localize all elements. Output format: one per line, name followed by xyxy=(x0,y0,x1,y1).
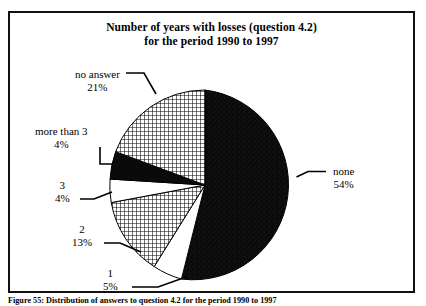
pie-label-3: 3 4% xyxy=(55,179,70,204)
pie-label-no-answer-value: 21% xyxy=(75,81,120,94)
pie-label-2-value: 13% xyxy=(72,236,92,249)
pie-label-3-name: 3 xyxy=(60,179,66,191)
pie-label-none: none 54% xyxy=(333,165,354,190)
leader-line-3 xyxy=(80,192,112,199)
figure-container: Number of years with losses (question 4.… xyxy=(0,0,426,306)
pie-label-2-name: 2 xyxy=(79,223,85,235)
pie-label-1-name: 1 xyxy=(108,267,114,279)
pie-label-3-value: 4% xyxy=(55,192,70,205)
pie-label-no-answer: no answer 21% xyxy=(75,68,120,93)
pie-label-none-name: none xyxy=(333,165,354,177)
pie-label-more-than-3-name: more than 3 xyxy=(35,125,88,137)
leader-line-more-than-3 xyxy=(100,147,113,164)
pie-label-1: 1 5% xyxy=(103,267,118,292)
pie-label-no-answer-name: no answer xyxy=(75,68,120,80)
pie-label-1-value: 5% xyxy=(103,280,118,293)
leader-line-none xyxy=(297,172,327,178)
pie-label-2: 2 13% xyxy=(72,223,92,248)
pie-label-more-than-3: more than 3 4% xyxy=(35,125,88,150)
pie-label-more-than-3-value: 4% xyxy=(35,138,88,151)
leader-line-no-answer xyxy=(126,73,156,94)
pie-label-none-value: 54% xyxy=(333,178,354,191)
figure-caption: Figure 55: Distribution of answers to qu… xyxy=(8,296,426,305)
pie-chart xyxy=(8,11,415,293)
